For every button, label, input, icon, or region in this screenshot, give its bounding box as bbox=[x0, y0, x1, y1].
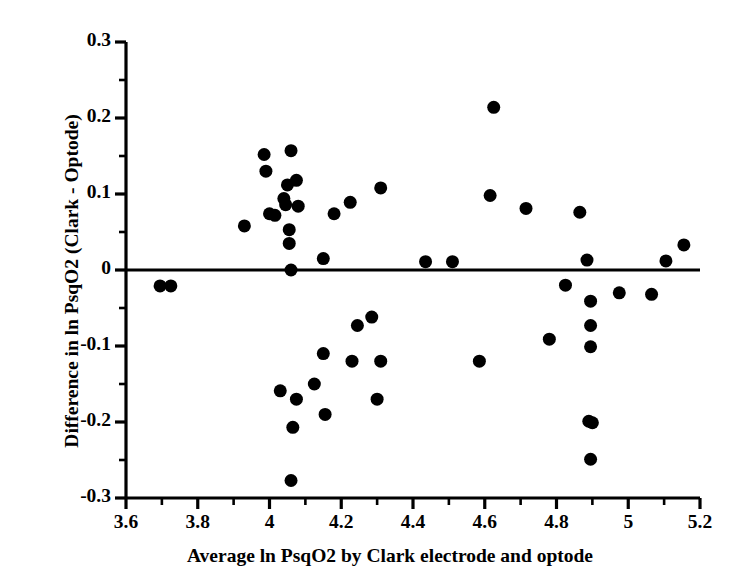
data-point bbox=[613, 286, 626, 299]
x-tick-label: 4 bbox=[247, 511, 293, 533]
data-point bbox=[374, 355, 387, 368]
x-tick-label: 4.8 bbox=[534, 511, 580, 533]
data-point bbox=[586, 416, 599, 429]
data-point bbox=[580, 254, 593, 267]
x-tick-label: 4.6 bbox=[462, 511, 508, 533]
data-point bbox=[365, 311, 378, 324]
data-point bbox=[238, 219, 251, 232]
data-point bbox=[274, 384, 287, 397]
data-point bbox=[573, 206, 586, 219]
data-point bbox=[520, 202, 533, 215]
data-point bbox=[446, 255, 459, 268]
x-tick-label: 3.6 bbox=[103, 511, 149, 533]
data-point bbox=[259, 165, 272, 178]
data-point bbox=[473, 355, 486, 368]
data-point-group bbox=[154, 101, 691, 487]
data-point bbox=[164, 279, 177, 292]
data-point bbox=[346, 355, 359, 368]
data-point bbox=[543, 333, 556, 346]
data-point bbox=[645, 288, 658, 301]
data-point bbox=[317, 347, 330, 360]
data-point bbox=[344, 196, 357, 209]
data-point bbox=[374, 181, 387, 194]
y-tick-label: 0 bbox=[51, 257, 111, 279]
data-point bbox=[659, 254, 672, 267]
y-tick-label: -0.1 bbox=[51, 333, 111, 355]
bland-altman-scatter-figure: Difference in ln PsqO2 (Clark - Optode) … bbox=[0, 0, 737, 588]
data-point bbox=[268, 209, 281, 222]
data-point bbox=[487, 101, 500, 114]
data-point bbox=[285, 264, 298, 277]
y-tick-label: 0.3 bbox=[51, 29, 111, 51]
x-axis-title: Average ln PsqO2 by Clark electrode and … bbox=[60, 545, 720, 567]
y-tick-label: 0.2 bbox=[51, 105, 111, 127]
data-point bbox=[584, 319, 597, 332]
data-point bbox=[258, 148, 271, 161]
y-tick-label: -0.3 bbox=[51, 485, 111, 507]
data-point bbox=[283, 237, 296, 250]
data-point bbox=[290, 174, 303, 187]
data-point bbox=[559, 279, 572, 292]
x-tick-label: 5.2 bbox=[677, 511, 723, 533]
data-point bbox=[351, 319, 364, 332]
data-point bbox=[484, 189, 497, 202]
data-point bbox=[328, 207, 341, 220]
data-point bbox=[584, 340, 597, 353]
data-point bbox=[319, 408, 332, 421]
x-tick-label: 5 bbox=[605, 511, 651, 533]
y-tick-label: 0.1 bbox=[51, 181, 111, 203]
data-point bbox=[419, 255, 432, 268]
data-point bbox=[584, 453, 597, 466]
y-tick-label: -0.2 bbox=[51, 409, 111, 431]
x-tick-label: 3.8 bbox=[175, 511, 221, 533]
data-point bbox=[279, 198, 292, 211]
x-tick-label: 4.4 bbox=[390, 511, 436, 533]
data-point bbox=[283, 223, 296, 236]
data-point bbox=[285, 474, 298, 487]
data-point bbox=[677, 238, 690, 251]
data-point bbox=[308, 378, 321, 391]
data-point bbox=[371, 393, 384, 406]
data-point bbox=[584, 295, 597, 308]
data-point bbox=[317, 252, 330, 265]
data-point bbox=[286, 421, 299, 434]
x-tick-label: 4.2 bbox=[318, 511, 364, 533]
data-point bbox=[285, 144, 298, 157]
data-point bbox=[290, 393, 303, 406]
data-point bbox=[292, 200, 305, 213]
